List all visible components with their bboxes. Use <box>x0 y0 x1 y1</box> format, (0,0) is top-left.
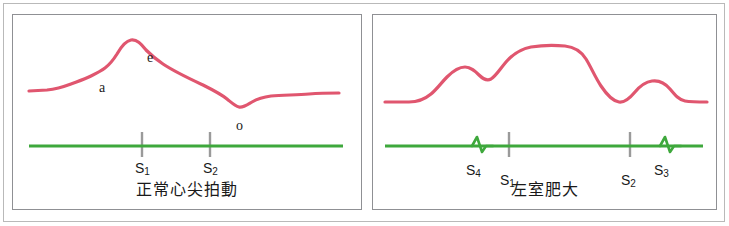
apexcardiogram-trace-lvh <box>385 45 707 102</box>
panel-left-ventricular-hypertrophy: S4 S1 S2 S3 左室肥大 <box>372 14 717 210</box>
heart-sound-letter: S <box>203 160 212 176</box>
wave-label-a-normal: a <box>99 81 105 95</box>
heart-sound-index: 1 <box>144 166 150 177</box>
apexcardiogram-figure: a e o S1 S2 正常心尖拍動 S4 S1 S2 S3 左室肥大 <box>0 0 729 226</box>
panel-caption-normal: 正常心尖拍動 <box>13 182 361 198</box>
heart-sound-letter: S <box>654 162 663 178</box>
wave-label-e-normal: e <box>147 51 153 65</box>
heart-sound-index: 3 <box>663 168 669 179</box>
panel-caption-lvh: 左室肥大 <box>373 182 716 198</box>
heart-sound-letter: S <box>466 162 475 178</box>
heart-sound-label-s3-lvh: S3 <box>654 163 669 177</box>
heart-sound-label-s4-lvh: S4 <box>466 163 481 177</box>
apexcardiogram-trace-normal <box>29 40 339 107</box>
wave-label-o-normal: o <box>236 119 243 133</box>
heart-sound-label-s2-normal: S2 <box>203 161 218 175</box>
heart-sound-index: 2 <box>212 166 218 177</box>
panel-normal-apex-beat: a e o S1 S2 正常心尖拍動 <box>12 14 362 210</box>
heart-sound-letter: S <box>135 160 144 176</box>
heart-sound-index: 4 <box>475 168 481 179</box>
heart-sound-label-s1-normal: S1 <box>135 161 150 175</box>
